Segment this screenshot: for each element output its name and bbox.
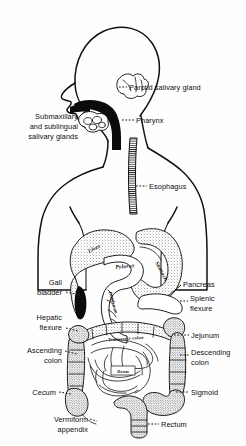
callout-jejunum-line-1: Jejunum xyxy=(191,331,219,340)
callout-cecum-line-1: Cecum xyxy=(32,388,56,397)
callout-vermiform-appendix-line-2: appendix xyxy=(58,425,89,434)
esophagus-shape xyxy=(129,138,138,214)
callout-splenic-flexure-line-2: flexure xyxy=(190,304,213,313)
callout-submaxillary-line-2: and sublingual xyxy=(30,122,79,131)
callout-pharynx-line-1: Pharynx xyxy=(136,116,164,125)
organ-label-ileum: Ileum xyxy=(116,369,129,374)
callout-parotid-salivary-gland-line-1: Parotid salivary gland xyxy=(129,83,201,92)
hepatic-flexure-shape xyxy=(69,326,89,343)
callout-rectum-line-1: Rectum xyxy=(161,420,187,429)
callout-gall-bladder-line-2: bladder xyxy=(37,288,62,297)
callout-ascending-colon-line-2: colon xyxy=(44,356,62,365)
callout-submaxillary-line-3: salivary glands xyxy=(28,132,78,141)
callout-descending-colon-line-1: Descending xyxy=(191,348,231,357)
callout-parotid-salivary-gland[interactable]: Parotid salivary gland xyxy=(119,83,201,92)
callout-descending-colon-line-2: colon xyxy=(191,358,209,367)
callout-gall-bladder-line-1: Gall xyxy=(49,278,63,287)
callout-pancreas-line-1: Pancreas xyxy=(183,280,215,289)
digestive-system-diagram: Liver Pylorus Stomach Duodenum Transvers… xyxy=(0,0,246,446)
callout-ascending-colon-line-1: Ascending xyxy=(27,346,62,355)
canvas-background xyxy=(0,0,246,446)
callout-splenic-flexure-line-1: Splenic xyxy=(190,294,215,303)
callout-esophagus-line-1: Esophagus xyxy=(149,182,187,191)
callout-hepatic-flexure-line-2: flexure xyxy=(39,323,62,332)
callout-hepatic-flexure-line-1: Hepatic xyxy=(37,313,63,322)
callout-sigmoid-line-1: Sigmoid xyxy=(191,388,218,397)
callout-submaxillary-line-1: Submaxillary xyxy=(35,112,78,121)
callout-vermiform-appendix-line-1: Vermiform xyxy=(54,415,88,424)
